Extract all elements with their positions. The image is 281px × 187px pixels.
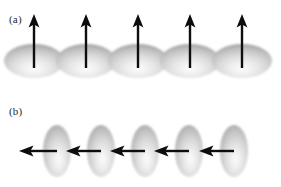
figure-canvas: [0, 0, 281, 187]
panel-b-group: [19, 125, 248, 177]
figure-root: (a) (b): [0, 0, 281, 187]
panel-a-group: [4, 14, 272, 78]
